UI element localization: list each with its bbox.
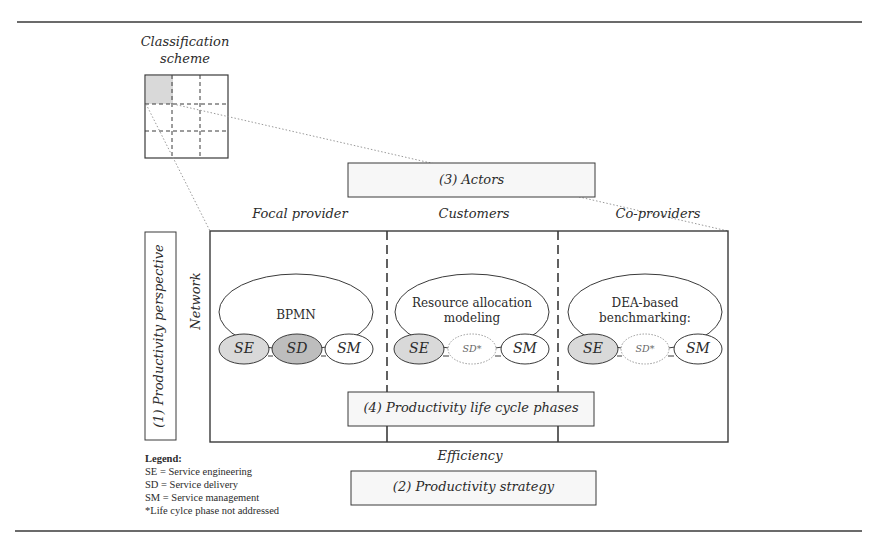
method-label-focal-provider: BPMN [221,308,371,323]
method-line1: DEA-based [570,296,720,311]
phase-label-sm: SM [500,340,550,356]
efficiency-axis-label: Efficiency [400,448,540,463]
phase-label-sm: SM [324,340,374,356]
phase-label-se: SE [219,340,269,356]
legend-item: SE = Service engineering [145,465,279,478]
phase-label-se: SE [568,340,618,356]
phase-label-sm: SM [673,340,723,356]
legend-title: Legend: [145,452,279,465]
column-header-co-providers: Co-providers [588,206,728,221]
legend: Legend: SE = Service engineering SD = Se… [145,452,279,517]
method-line1: Resource allocation [397,296,547,311]
phase-label-se: SE [394,340,444,356]
strategy-label: (2) Productivity strategy [351,479,596,494]
diagram-graphics [0,0,892,552]
method-line2: modeling [397,311,547,326]
legend-item: SM = Service management [145,491,279,504]
network-axis-label: Network [188,261,203,341]
phases-label: (4) Productivity life cycle phases [348,400,594,415]
phase-label-sd-not-addressed: SD* [620,343,670,354]
phase-label-sd: SD [272,340,322,356]
classification-title-line2: scheme [130,50,240,67]
method-line2: benchmarking: [570,311,720,326]
actors-label: (3) Actors [348,172,595,187]
classification-title: Classification scheme [130,33,240,67]
diagram-canvas: Classification scheme (3) Actors Focal p… [0,0,892,552]
classification-title-line1: Classification [130,33,240,50]
phase-label-sd-not-addressed: SD* [447,343,497,354]
perspective-label: (1) Productivity perspective [151,236,166,436]
column-header-customers: Customers [404,206,544,221]
classification-grid [145,75,228,158]
legend-item: SD = Service delivery [145,478,279,491]
legend-item: *Life cylce phase not addressed [145,504,279,517]
zoom-line-bottom [146,104,210,231]
method-label-customers: Resource allocation modeling [397,296,547,326]
method-label-co-providers: DEA-based benchmarking: [570,296,720,326]
method-line1: BPMN [221,308,371,323]
column-header-focal-provider: Focal provider [230,206,370,221]
